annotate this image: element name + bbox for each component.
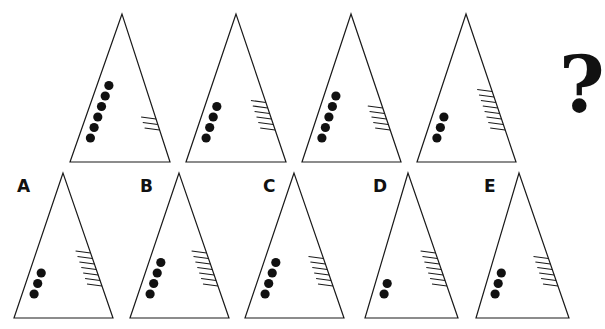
dot-icon (380, 289, 389, 298)
dot-icon (101, 91, 110, 100)
dot-icon (202, 133, 211, 142)
dot-icon (205, 123, 214, 132)
sequence-triangle-1 (70, 14, 170, 162)
option-label-b[interactable]: B (140, 176, 153, 196)
dot-icon (328, 102, 337, 111)
option-triangle-c[interactable] (245, 173, 344, 318)
sequence-triangle-2 (186, 14, 286, 162)
sequence-triangle-3 (302, 14, 401, 162)
dot-icon (146, 289, 155, 298)
option-label-c[interactable]: C (263, 176, 275, 196)
dot-icon (261, 289, 270, 298)
dot-icon (153, 268, 162, 277)
dot-icon (271, 258, 280, 267)
triangle-outline (70, 14, 170, 162)
dot-icon (93, 112, 102, 121)
dot-icon (436, 123, 445, 132)
dot-icon (439, 112, 448, 121)
question-mark: ? (559, 46, 605, 124)
dot-icon (209, 112, 218, 121)
dot-icon (264, 279, 273, 288)
dot-icon (491, 289, 500, 298)
option-label-a[interactable]: A (17, 176, 30, 196)
dot-icon (497, 268, 506, 277)
dot-icon (37, 268, 46, 277)
dot-icon (324, 112, 333, 121)
dot-icon (321, 123, 330, 132)
dot-icon (432, 133, 441, 142)
triangle-outline (417, 14, 516, 162)
triangle-outline (186, 14, 286, 162)
dot-icon (156, 258, 165, 267)
dot-icon (29, 289, 38, 298)
dot-icon (104, 81, 113, 90)
dot-icon (383, 279, 392, 288)
dot-icon (317, 133, 326, 142)
dot-icon (86, 133, 95, 142)
dot-icon (149, 279, 158, 288)
dot-icon (268, 268, 277, 277)
option-label-e[interactable]: E (484, 176, 496, 196)
sequence-triangle-4 (417, 14, 516, 162)
option-label-d[interactable]: D (373, 176, 387, 196)
dot-icon (212, 102, 221, 111)
dot-icon (494, 279, 503, 288)
triangle-outline (245, 173, 344, 318)
dot-icon (331, 91, 340, 100)
dot-icon (90, 123, 99, 132)
triangle-outline (302, 14, 401, 162)
dot-icon (33, 279, 42, 288)
dot-icon (97, 102, 106, 111)
